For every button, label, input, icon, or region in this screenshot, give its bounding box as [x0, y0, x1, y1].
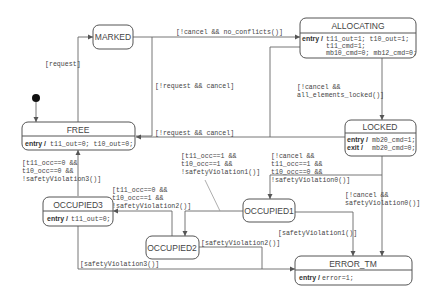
edge-occupied1-to-occupied2 — [185, 211, 243, 236]
state-marked-name: MARKED — [95, 32, 131, 42]
guard-occupied3-to-free-1: [t11_occ==0 && — [22, 160, 77, 167]
state-occupied2-name: OCCUPIED2 — [147, 243, 197, 253]
guard-free-to-marked: [request] — [45, 61, 81, 68]
guard-allocating-to-locked-1: [!cancel && — [297, 84, 341, 91]
guard-marked-to-free: [!request && cancel] — [155, 83, 234, 90]
guard-occupied3-to-error: [safetyViolation3()] — [80, 261, 159, 268]
state-locked-name: LOCKED — [363, 122, 398, 132]
state-locked: LOCKED entry / mb20_cmd=1; exit / mb20_c… — [345, 120, 416, 156]
guard-occupied2-to-occupied3-2: t10_occ==1 && — [112, 195, 163, 202]
guard-occupied2-to-occupied3-1: [t11_occ==0 && — [112, 187, 167, 194]
guard-locked-to-error-1: [!cancel && — [345, 192, 389, 199]
initial-state-dot — [32, 94, 40, 102]
allocating-entry-label: entry / — [302, 35, 323, 43]
guard-occupied1-to-occupied2-3: !safetyViolation1()] — [181, 169, 260, 176]
state-diagram: [request] [!cancel && no_conflicts()] [!… — [0, 0, 438, 299]
edge-occupied2-to-occupied3 — [113, 211, 172, 236]
guard-leader-occupied1-to-occupied2 — [205, 180, 220, 211]
free-entry: t11_out=0; t10_out=0; — [50, 141, 133, 148]
error-tm-entry-label: entry / — [299, 274, 320, 282]
free-entry-label: entry / — [25, 140, 46, 148]
guard-marked-to-allocating: [!cancel && no_conflicts()] — [176, 29, 283, 36]
allocating-entry-1: t11_out=1; t10_out=1; — [326, 36, 409, 43]
guard-locked-to-occupied1-4: !safetyViolation0()] — [271, 177, 350, 184]
occupied3-entry: t11_out=0; — [71, 216, 111, 223]
guard-occupied1-to-occupied2-2: t10_occ==1 && — [181, 161, 232, 168]
state-occupied2: OCCUPIED2 — [146, 236, 199, 259]
edge-marked-to-free — [136, 37, 152, 136]
edge-free-to-marked — [78, 37, 93, 122]
guard-occupied2-to-occupied3-3: !safetyViolation2()] — [112, 203, 191, 210]
guard-occupied2-to-error: [safetyViolation2()] — [201, 240, 280, 247]
state-allocating: ALLOCATING entry / t11_out=1; t10_out=1;… — [300, 18, 417, 58]
state-occupied3-name: OCCUPIED3 — [53, 200, 103, 210]
occupied3-entry-label: entry / — [47, 215, 68, 223]
guard-locked-to-occupied1-3: t10_occ==0 && — [271, 169, 322, 176]
guard-allocating-to-locked-2: all_elements_locked()] — [297, 92, 384, 99]
state-occupied1-name: OCCUPIED1 — [244, 206, 294, 216]
error-tm-entry: error=1; — [322, 275, 354, 282]
guard-locked-to-occupied1-1: [!cancel && — [271, 153, 315, 160]
state-error-tm: ERROR_TM entry / error=1; — [295, 256, 412, 285]
guard-locked-to-error-2: safetyViolation0()] — [345, 200, 420, 207]
guard-occupied3-to-free-2: t10_occ==0 && — [22, 168, 73, 175]
allocating-entry-3: mb10_cmd=0; mb12_cmd=0; — [326, 50, 417, 57]
state-error-tm-name: ERROR_TM — [329, 259, 377, 269]
locked-entry: mb20_cmd=1; — [372, 137, 416, 144]
guard-locked-to-occupied1-2: t11_occ==1 && — [271, 161, 322, 168]
locked-entry-label: entry / — [347, 136, 368, 144]
guard-occupied3-to-free-3: !safetyViolation3()] — [22, 176, 101, 183]
guard-occupied1-to-occupied2-1: [t11_occ==1 && — [181, 153, 236, 160]
state-free-name: FREE — [67, 125, 90, 135]
edge-allocating-to-free — [136, 47, 300, 137]
edge-occupied2-to-error — [199, 247, 262, 269]
locked-exit: mb20_cmd=0; — [372, 145, 416, 152]
allocating-entry-2: t11_cmd=1; — [326, 43, 366, 50]
guard-allocating-to-free: [!request && cancel] — [155, 130, 234, 137]
state-allocating-name: ALLOCATING — [331, 21, 384, 31]
locked-exit-label: exit / — [347, 144, 363, 151]
state-occupied3: OCCUPIED3 entry / t11_out=0; — [43, 197, 113, 226]
state-marked: MARKED — [93, 25, 133, 49]
guard-occupied1-to-error: [safetyViolation1()] — [278, 230, 357, 237]
state-occupied1: OCCUPIED1 — [243, 199, 295, 222]
state-free: FREE entry / t11_out=0; t10_out=0; — [22, 122, 135, 150]
